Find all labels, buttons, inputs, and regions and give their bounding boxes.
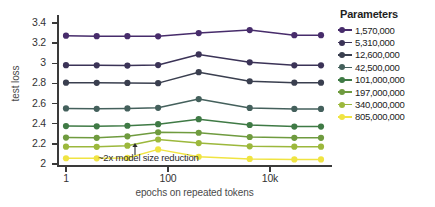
legend-color-swatch: [338, 112, 352, 122]
series-line: [66, 119, 321, 126]
data-point: [291, 106, 297, 112]
series-line: [66, 54, 321, 65]
data-point: [124, 33, 130, 39]
data-series: [63, 129, 324, 141]
data-point: [196, 69, 202, 75]
data-point: [155, 121, 161, 127]
data-point: [318, 62, 324, 68]
legend-item-label: 1,570,000: [355, 25, 395, 36]
series-line: [66, 99, 321, 109]
legend-item[interactable]: 805,000,000: [338, 111, 435, 123]
data-point: [196, 51, 202, 57]
data-point: [94, 62, 100, 68]
data-point: [124, 80, 130, 86]
data-point: [94, 123, 100, 129]
data-point: [124, 62, 130, 68]
legend-color-swatch: [338, 62, 352, 72]
data-point: [247, 105, 253, 111]
data-point: [291, 80, 297, 86]
data-series: [63, 136, 324, 150]
legend-item[interactable]: 340,000,000: [338, 98, 435, 110]
legend-item-label: 197,000,000: [355, 87, 405, 98]
x-tick-label: 1: [46, 172, 86, 184]
data-point: [63, 33, 69, 39]
legend-item-label: 12,600,000: [355, 49, 400, 60]
data-series: [63, 69, 324, 86]
series-line: [66, 132, 321, 138]
data-point: [318, 80, 324, 86]
data-point: [318, 123, 324, 129]
legend-color-swatch: [338, 25, 352, 35]
data-point: [94, 33, 100, 39]
data-point: [63, 105, 69, 111]
data-point: [291, 123, 297, 129]
legend-color-swatch: [338, 50, 352, 60]
data-point: [291, 135, 297, 141]
series-line: [66, 72, 321, 83]
data-point: [318, 32, 324, 38]
data-point: [318, 144, 324, 150]
data-series: [63, 27, 324, 39]
data-point: [291, 62, 297, 68]
data-point: [155, 129, 161, 135]
data-point: [291, 156, 297, 162]
legend-item[interactable]: 42,500,000: [338, 61, 435, 73]
data-point: [247, 156, 253, 162]
annotation-text: ~2x model size reduction: [98, 152, 199, 163]
data-point: [94, 135, 100, 141]
y-tick-label: 2: [2, 157, 46, 169]
legend-color-swatch: [338, 87, 352, 97]
legend-item-label: 340,000,000: [355, 99, 405, 110]
legend-item-label: 5,310,000: [355, 37, 395, 48]
legend-item[interactable]: 197,000,000: [338, 86, 435, 98]
data-point: [94, 106, 100, 112]
data-point: [247, 143, 253, 149]
data-point: [63, 155, 69, 161]
data-point: [247, 134, 253, 140]
legend-entries: 1,570,0005,310,00012,600,00042,500,00010…: [338, 24, 435, 123]
data-point: [291, 144, 297, 150]
data-point: [63, 135, 69, 141]
data-point: [247, 122, 253, 128]
data-series: [63, 51, 324, 68]
data-point: [247, 78, 253, 84]
y-tick-label: 3.4: [2, 16, 46, 28]
x-tick-label: 100: [148, 172, 188, 184]
data-point: [94, 144, 100, 150]
legend-item[interactable]: 5,310,000: [338, 36, 435, 48]
series-line: [66, 30, 321, 36]
x-axis-label: epochs on repeated tokens: [57, 187, 332, 198]
legend-item[interactable]: 101,000,000: [338, 74, 435, 86]
series-line: [66, 140, 321, 147]
legend-color-swatch: [338, 100, 352, 110]
annotation-arrow-icon: [130, 143, 140, 155]
y-tick-label: 3.2: [2, 36, 46, 48]
data-point: [318, 106, 324, 112]
legend-item-label: 42,500,000: [355, 62, 400, 73]
y-axis-label: test loss: [10, 49, 21, 119]
data-point: [63, 123, 69, 129]
data-point: [155, 33, 161, 39]
legend-item[interactable]: 12,600,000: [338, 49, 435, 61]
chart-figure: 22.22.42.62.833.23.4 110010k test loss e…: [0, 0, 435, 207]
data-point: [247, 59, 253, 65]
data-point: [124, 123, 130, 129]
data-point: [94, 80, 100, 86]
data-point: [196, 30, 202, 36]
y-tick-label: 2.4: [2, 117, 46, 129]
data-point: [155, 105, 161, 111]
data-point: [247, 27, 253, 33]
plot-area: [57, 15, 330, 167]
data-series: [63, 96, 324, 112]
legend: Parameters 1,570,0005,310,00012,600,0004…: [338, 8, 435, 123]
data-series: [63, 116, 324, 130]
legend-color-swatch: [338, 75, 352, 85]
data-point: [291, 32, 297, 38]
data-point: [196, 140, 202, 146]
data-point: [124, 133, 130, 139]
legend-color-swatch: [338, 38, 352, 48]
legend-item[interactable]: 1,570,000: [338, 24, 435, 36]
data-point: [318, 156, 324, 162]
data-point: [155, 80, 161, 86]
data-point: [63, 144, 69, 150]
